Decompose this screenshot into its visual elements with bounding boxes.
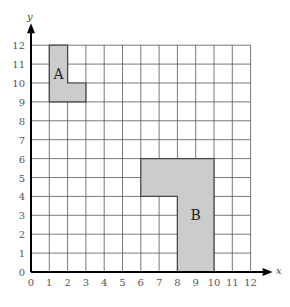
y-tick-label: 5 (19, 173, 25, 184)
x-axis-arrow-icon (263, 268, 273, 276)
y-tick-label: 7 (19, 135, 25, 146)
x-tick-label: 4 (101, 277, 107, 288)
y-tick-label: 12 (12, 40, 25, 51)
y-tick-label: 6 (19, 154, 25, 165)
x-axis-label: x (276, 265, 282, 276)
y-tick-label: 0 (19, 267, 25, 278)
x-tick-label: 2 (64, 277, 70, 288)
coordinate-grid: AB 01234567891011120123456789101112 x y (0, 0, 290, 307)
x-tick-label: 6 (138, 277, 144, 288)
y-tick-label: 1 (19, 248, 25, 259)
x-tick-label: 9 (193, 277, 199, 288)
x-tick-label: 0 (28, 277, 34, 288)
x-tick-label: 12 (244, 277, 257, 288)
x-tick-label: 11 (226, 277, 239, 288)
y-tick-label: 8 (19, 116, 25, 127)
x-tick-label: 5 (119, 277, 125, 288)
y-axis-label: y (26, 11, 33, 22)
x-tick-label: 7 (156, 277, 162, 288)
y-tick-label: 2 (19, 229, 25, 240)
y-tick-label: 10 (12, 78, 25, 89)
y-tick-label: 9 (19, 97, 25, 108)
x-tick-label: 1 (46, 277, 52, 288)
x-tick-label: 3 (83, 277, 89, 288)
x-tick-label: 8 (174, 277, 180, 288)
x-tick-label: 10 (208, 277, 221, 288)
y-axis-arrow-icon (27, 23, 35, 33)
shape-label-a: A (52, 66, 64, 82)
y-tick-label: 4 (19, 191, 25, 202)
y-tick-label: 11 (12, 59, 25, 70)
shape-label-b: B (191, 207, 201, 223)
y-tick-label: 3 (19, 210, 25, 221)
